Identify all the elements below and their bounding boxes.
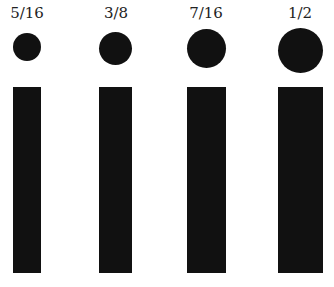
bar-rect [187,87,226,273]
bar-rect [278,87,323,273]
circle-dot [278,28,323,73]
bar-rect [99,87,132,273]
size-label: 5/16 [0,4,57,22]
size-label: 3/8 [86,4,146,22]
bar-rect [13,87,41,273]
circle-dot [187,29,226,68]
circle-dot [99,32,132,65]
circle-dot [13,33,41,61]
size-label: 7/16 [176,4,236,22]
size-label: 1/2 [270,4,330,22]
